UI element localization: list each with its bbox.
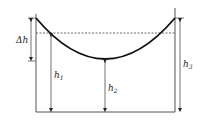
- delta-h-label: Δh: [15, 35, 28, 45]
- liquid-surface-curve: [36, 18, 175, 59]
- h1-label: h1: [54, 70, 64, 81]
- liquid-level-diagram: Δh h1 h2 h3: [0, 0, 200, 121]
- h3-label: h3: [183, 59, 193, 70]
- h2-label: h2: [108, 83, 118, 94]
